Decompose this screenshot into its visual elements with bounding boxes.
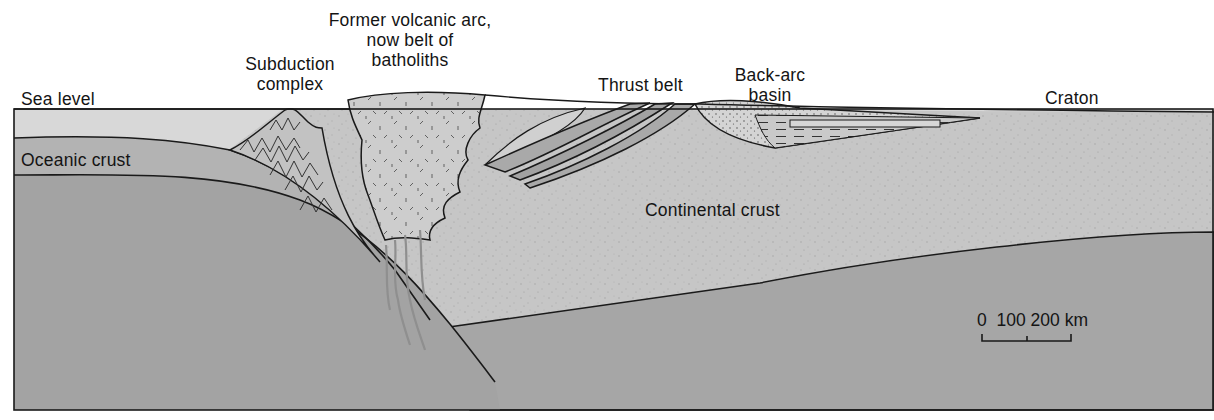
label-continental-crust: Continental crust	[645, 200, 780, 220]
label-back-arc-basin: Back-arc basin	[720, 65, 820, 105]
scale-tick-100: 100	[996, 310, 1025, 330]
cross-section-diagram	[0, 0, 1214, 420]
label-back-arc-line2: basin	[720, 85, 820, 105]
scale-tick-200: 200	[1031, 310, 1060, 330]
label-volcanic-arc-line2: now belt of	[310, 30, 510, 50]
scale-unit: km	[1065, 310, 1088, 330]
label-craton: Craton	[1045, 88, 1099, 108]
label-subduction-line2: complex	[230, 74, 350, 94]
scale-tick-0: 0	[977, 310, 987, 330]
label-back-arc-line1: Back-arc	[720, 65, 820, 85]
label-volcanic-arc-line1: Former volcanic arc,	[310, 10, 510, 30]
label-volcanic-arc: Former volcanic arc, now belt of batholi…	[310, 10, 510, 70]
back-arc-limestone	[790, 120, 940, 127]
label-sea-level: Sea level	[21, 89, 95, 109]
label-oceanic-crust: Oceanic crust	[21, 150, 131, 170]
scale-bar-label: 0 100 200 km	[977, 310, 1088, 331]
label-volcanic-arc-line3: batholiths	[310, 50, 510, 70]
label-thrust-belt: Thrust belt	[598, 75, 683, 95]
